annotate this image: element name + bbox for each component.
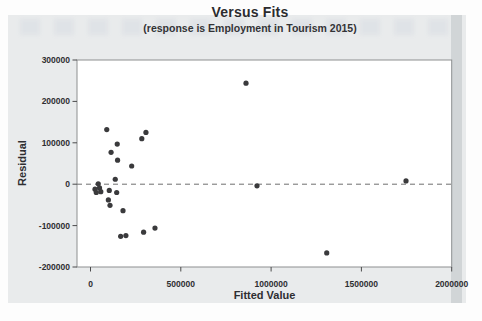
- data-point: [243, 81, 248, 86]
- y-axis-label: Residual: [16, 140, 28, 186]
- x-axis-tick-label: 2000000: [435, 279, 468, 289]
- data-point: [115, 158, 120, 163]
- data-point: [94, 190, 99, 195]
- data-point: [118, 234, 123, 239]
- x-axis-tick-label: 1000000: [255, 279, 288, 289]
- data-point: [120, 208, 125, 213]
- data-point: [403, 178, 408, 183]
- y-axis-tick-label: -200000: [39, 262, 70, 272]
- scanned-page: Versus Fits (response is Employment in T…: [0, 0, 482, 321]
- plot-area-frame: [77, 60, 452, 267]
- data-point: [114, 190, 119, 195]
- data-point: [324, 250, 329, 255]
- data-point: [107, 188, 112, 193]
- y-axis-tick-label: 100000: [42, 138, 71, 148]
- x-axis-tick-label: 0: [88, 279, 93, 289]
- y-axis-tick-label: 200000: [42, 96, 71, 106]
- data-point: [107, 203, 112, 208]
- data-point: [115, 141, 120, 146]
- data-point: [152, 225, 157, 230]
- data-point: [139, 136, 144, 141]
- data-point: [113, 177, 118, 182]
- x-axis-tick-label: 500000: [167, 279, 196, 289]
- data-point: [98, 189, 103, 194]
- scatter-plot-canvas: 3000002000001000000-100000-2000000500000…: [0, 0, 482, 321]
- y-axis-tick-label: -100000: [39, 221, 70, 231]
- x-axis-tick-label: 1500000: [345, 279, 378, 289]
- y-axis-tick-label: 0: [65, 179, 70, 189]
- data-point: [141, 230, 146, 235]
- data-point: [106, 197, 111, 202]
- data-point: [254, 183, 259, 188]
- data-point: [143, 130, 148, 135]
- data-point: [123, 233, 128, 238]
- data-point: [129, 163, 134, 168]
- x-axis-label: Fitted Value: [77, 289, 452, 301]
- data-point: [104, 127, 109, 132]
- data-point: [108, 150, 113, 155]
- y-axis-tick-label: 300000: [42, 55, 71, 65]
